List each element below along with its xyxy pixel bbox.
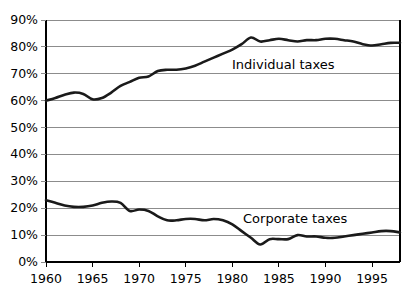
y-tick-label: 70% (10, 68, 38, 81)
chart-canvas (0, 0, 416, 298)
tax-share-line-chart: 90%80%70%60%50%40%30%20%10%0% 1960196519… (0, 0, 416, 298)
y-tick-label: 40% (10, 148, 38, 161)
series-label-corporate-taxes: Corporate taxes (243, 212, 347, 225)
y-tick-label: 80% (10, 41, 38, 54)
x-tick-label: 1970 (114, 273, 164, 286)
x-tick-label: 1965 (68, 273, 118, 286)
x-tick-label: 1960 (21, 273, 71, 286)
x-tick-label: 1980 (207, 273, 257, 286)
series-label-individual-taxes: Individual taxes (232, 58, 335, 71)
y-tick-label: 30% (10, 175, 38, 188)
x-tick-label: 1985 (254, 273, 304, 286)
x-tick-label: 1995 (347, 273, 397, 286)
y-tick-label: 10% (10, 229, 38, 242)
y-tick-label: 50% (10, 122, 38, 135)
y-axis-ticks (41, 20, 46, 262)
y-tick-label: 20% (10, 202, 38, 215)
x-tick-label: 1990 (300, 273, 350, 286)
x-tick-label: 1975 (161, 273, 211, 286)
x-axis-ticks (46, 262, 372, 267)
y-tick-label: 60% (10, 95, 38, 108)
y-tick-label: 0% (18, 256, 38, 269)
y-tick-label: 90% (10, 14, 38, 27)
